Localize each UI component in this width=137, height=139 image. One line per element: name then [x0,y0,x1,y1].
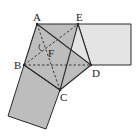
label-c: C [60,91,67,103]
geometry-diagram: A E D B C F [0,0,137,139]
label-f: F [48,47,54,59]
label-b: B [14,59,21,71]
label-d: D [92,67,100,79]
label-e: E [76,11,83,23]
label-a: A [33,11,41,23]
